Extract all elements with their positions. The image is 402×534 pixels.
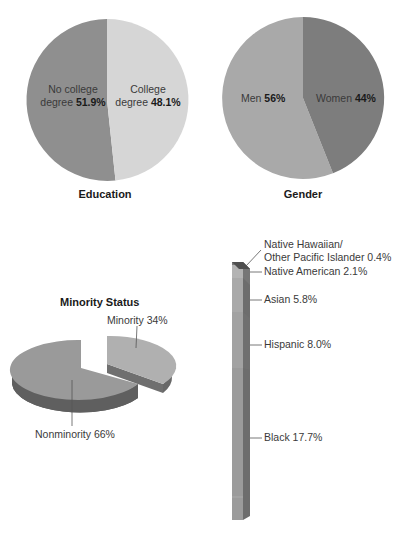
nhopi-label: Native Hawaiian/ Other Pacific Islander … <box>264 238 391 264</box>
bar-segment-asian <box>232 278 243 312</box>
education-title: Education <box>60 188 150 200</box>
gender-women-value: 44% <box>355 92 376 104</box>
gender-women-label: Women 44% <box>316 92 376 105</box>
education-pie-chart: No college degree 51.9% College degree 4… <box>0 0 200 210</box>
education-no-college-value: 51.9% <box>76 96 106 108</box>
bar-side-face <box>243 262 250 520</box>
gender-men-label: Men 56% <box>241 92 285 105</box>
gender-title: Gender <box>258 188 348 200</box>
bar-side-mid-segment <box>243 312 250 370</box>
asian-label: Asian 5.8% <box>264 293 317 306</box>
education-no-college-label: No college degree 51.9% <box>36 83 110 109</box>
education-college-value: 48.1% <box>151 96 181 108</box>
hispanic-label: Hispanic 8.0% <box>264 338 331 351</box>
nonminority-label: Nonminority 66% <box>35 428 115 441</box>
minority-breakdown-bar-chart: Native Hawaiian/ Other Pacific Islander … <box>200 230 402 534</box>
minority-label: Minority 34% <box>107 314 168 327</box>
gender-pie-graphic <box>200 0 402 210</box>
gender-men-value: 56% <box>264 92 285 104</box>
bar-segment-hispanic <box>232 312 243 368</box>
gender-pie-chart: Men 56% Women 44% Gender <box>200 0 402 210</box>
minority-status-pie-chart: Minority Status Minority 34% Nonminority… <box>0 280 200 460</box>
native-american-label: Native American 2.1% <box>264 265 367 278</box>
black-label: Black 17.7% <box>264 431 322 444</box>
nhopi-leader-line <box>246 250 261 266</box>
education-college-label: College degree 48.1% <box>112 83 184 109</box>
